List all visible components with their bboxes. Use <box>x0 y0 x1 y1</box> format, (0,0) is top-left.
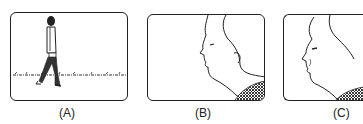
panel-a-frame <box>10 12 128 101</box>
panel-c-frame <box>283 14 363 101</box>
panel-c-label: (C) <box>333 106 350 120</box>
panel-b-frame <box>147 14 265 101</box>
panel-b-label: (B) <box>195 106 211 120</box>
walking-person-illustration <box>11 13 128 101</box>
face-closeup-illustration <box>284 15 363 101</box>
face-profile-illustration <box>148 15 265 101</box>
panel-a-label: (A) <box>59 106 75 120</box>
